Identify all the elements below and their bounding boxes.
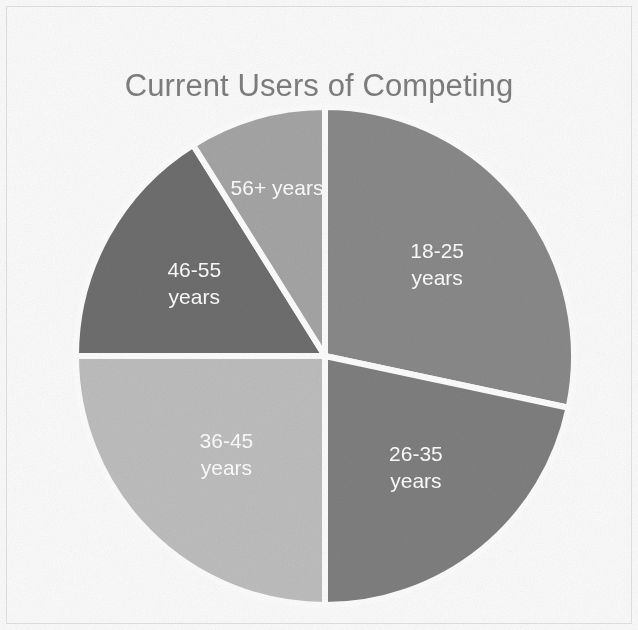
pie-slice[interactable] (76, 356, 325, 605)
pie-chart: 18-25years26-35years36-45years46-55years… (0, 0, 638, 630)
pie-slice-label: 56+ years (231, 175, 324, 198)
pie-slices-group (76, 107, 574, 605)
chart-page: Current Users of Competing Product (Char… (0, 0, 638, 630)
pie-chart-svg: 18-25years26-35years36-45years46-55years… (0, 0, 638, 630)
